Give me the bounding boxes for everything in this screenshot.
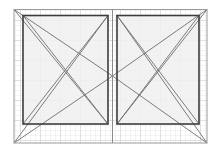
drawing-canvas — [0, 0, 221, 153]
window-elevation-drawing — [0, 0, 221, 153]
